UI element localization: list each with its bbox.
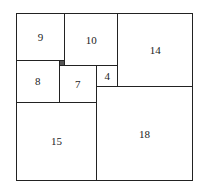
square-15: 15 bbox=[16, 102, 97, 181]
square-10: 10 bbox=[64, 13, 118, 66]
square-4: 4 bbox=[96, 65, 118, 87]
square-18: 18 bbox=[96, 86, 193, 181]
squared-rectangle: 910148741815 bbox=[16, 13, 192, 180]
square-7: 7 bbox=[59, 65, 97, 103]
square-14: 14 bbox=[117, 13, 193, 87]
square-9: 9 bbox=[16, 13, 65, 61]
square-8: 8 bbox=[16, 60, 60, 103]
